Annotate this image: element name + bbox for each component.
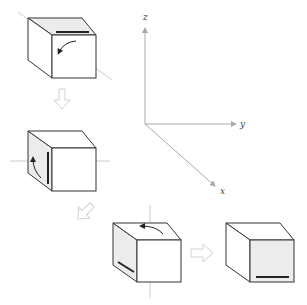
block-arrow-right-icon bbox=[191, 244, 213, 262]
diagram-canvas: z y x bbox=[0, 0, 307, 305]
coordinate-axes: z y x bbox=[142, 12, 246, 196]
z-axis-label: z bbox=[142, 12, 148, 22]
front-face bbox=[137, 240, 181, 282]
cube-step-2 bbox=[10, 131, 110, 191]
block-arrow-down-icon bbox=[54, 89, 70, 109]
x-axis-label: x bbox=[220, 186, 225, 196]
cube-step-1 bbox=[18, 12, 112, 80]
front-face bbox=[52, 148, 96, 191]
cube-step-3 bbox=[113, 205, 181, 298]
front-face bbox=[250, 240, 294, 282]
diagram-svg: z y x bbox=[0, 0, 307, 305]
y-axis-label: y bbox=[239, 119, 246, 129]
cube-step-4 bbox=[226, 223, 294, 282]
x-axis bbox=[145, 124, 215, 186]
block-arrow-diagonal-icon bbox=[72, 199, 97, 224]
